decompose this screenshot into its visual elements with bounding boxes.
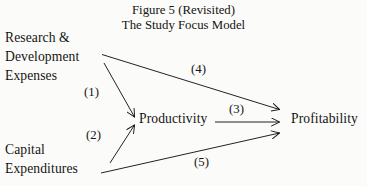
- node-capital-expenditures-line-1: Capital: [5, 143, 45, 157]
- diagram-arrows: [0, 0, 367, 186]
- path-label-4: (4): [191, 63, 206, 76]
- node-research-development-expenses-line-3: Expenses: [5, 69, 57, 83]
- node-capital-expenditures-line-2: Expenditures: [5, 162, 78, 176]
- node-profitability: Profitability: [291, 112, 358, 126]
- path-label-1: (1): [84, 86, 99, 99]
- path-label-5: (5): [194, 156, 209, 169]
- path-label-2: (2): [86, 129, 101, 142]
- arrow-path-2: [110, 125, 135, 163]
- node-research-development-expenses-line-2: Development: [5, 50, 79, 64]
- figure-canvas: Figure 5 (Revisited) The Study Focus Mod…: [0, 0, 367, 186]
- node-productivity: Productivity: [139, 112, 207, 126]
- arrow-path-5: [101, 133, 280, 173]
- path-label-3: (3): [229, 103, 244, 116]
- arrow-path-1: [104, 63, 135, 117]
- node-research-development-expenses-line-1: Research &: [5, 31, 70, 45]
